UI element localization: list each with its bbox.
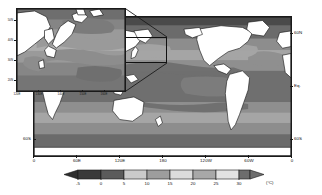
xtick-label-0: 0 [33, 158, 36, 163]
figure-sst-map: 0 60E 120E 180 120W 60W 0 60N Eq. 60S 60… [0, 0, 322, 195]
colorbar-label-20: 20 [191, 181, 196, 186]
colorbar-label-25: 25 [214, 181, 219, 186]
ytick-label-60s: 60S [294, 136, 302, 141]
inset-ytick-label-30n: 30N [0, 58, 13, 62]
inset-ytick-mark-50n [14, 20, 16, 21]
inset-map-panel [16, 8, 126, 92]
inset-xtick-label-150e: 150E [80, 92, 87, 96]
colorbar-label-30: 30 [237, 181, 242, 186]
colorbar-segments [78, 170, 250, 179]
colorbar-label-0: 0 [100, 181, 102, 186]
inset-ytick-mark-40n [14, 40, 16, 41]
inset-land-sakhalin [76, 9, 86, 15]
inset-ytick-mark-20n [14, 80, 16, 81]
inset-land-taiwan [39, 60, 45, 69]
colorbar-extend-max [250, 170, 264, 179]
colorbar-label-10: 10 [145, 181, 150, 186]
colorbar-label-5: 5 [123, 181, 125, 186]
inset-ytick-label-20n: 20N [0, 78, 13, 82]
inset-xtick-label-160e: 160E [101, 92, 108, 96]
ytick-label-60n: 60N [294, 30, 302, 35]
colorbar-extend-min [64, 170, 78, 179]
inset-ytick-mark-30n [14, 60, 16, 61]
colorbar-label-15: 15 [168, 181, 173, 186]
ytick-mark-60n [290, 33, 293, 34]
xtick-label-0-right: 0 [291, 158, 294, 163]
colorbar [64, 169, 264, 180]
inset-ytick-label-50n: 50N [0, 18, 13, 22]
inset-ytick-label-40n: 40N [0, 38, 13, 42]
ytick-mark-left-60s [33, 139, 36, 140]
ytick-mark-eq [290, 86, 293, 87]
inset-map-canvas [17, 9, 125, 91]
colorbar-units-label: (°C) [266, 180, 274, 185]
inset-xtick-label-120e: 120E [14, 92, 21, 96]
ytick-mark-60s [290, 139, 293, 140]
colorbar-label--5: -5 [76, 181, 80, 186]
colorbar-canvas [64, 169, 264, 180]
xtick-label-60e: 60E [73, 158, 81, 163]
inset-xtick-label-130e: 130E [36, 92, 43, 96]
ytick-label-left-60s: 60S [16, 136, 31, 141]
xtick-label-180: 180 [159, 158, 167, 163]
xtick-label-120e: 120E [115, 158, 126, 163]
xtick-label-60w: 60W [244, 158, 253, 163]
ytick-label-eq: Eq. [294, 83, 301, 88]
xtick-label-120w: 120W [200, 158, 212, 163]
inset-xtick-label-140e: 140E [58, 92, 65, 96]
